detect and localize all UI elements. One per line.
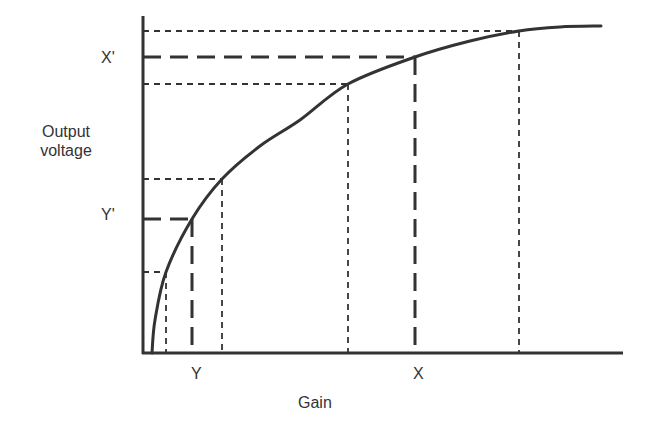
y-axis-label-line2: voltage <box>28 141 104 160</box>
x-axis-label: Gain <box>298 393 332 412</box>
y-tick-x-prime: X' <box>101 48 115 67</box>
y-tick-y-prime: Y' <box>101 205 115 224</box>
y-axis-label: Output voltage <box>28 122 104 160</box>
x-tick-y: Y <box>191 364 202 383</box>
y-axis-label-line1: Output <box>28 122 104 141</box>
x-tick-x: X <box>413 364 424 383</box>
response-curve <box>152 26 601 353</box>
projection-lines <box>143 31 519 353</box>
gain-vs-output-diagram <box>0 0 652 427</box>
